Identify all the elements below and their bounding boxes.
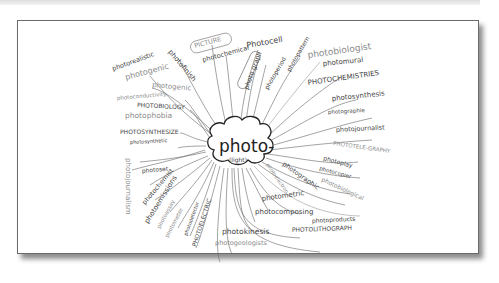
branch-label: photoperiod <box>263 55 288 91</box>
branch-label: photomural <box>322 56 363 68</box>
branch-label: PHOTOBIOLOGY <box>137 101 185 111</box>
branch-label: photosynthetic <box>130 137 168 146</box>
branch-label: PHOTOSYNTHESIZE <box>120 128 179 135</box>
mind-map-canvas: photo- (light) photorealistic photogenic… <box>0 0 499 283</box>
branch-label: Photocell <box>246 35 284 50</box>
branch-label: photocomposing <box>255 208 313 216</box>
hub-word: photo- <box>219 136 274 156</box>
branch-label: photophobia <box>125 111 172 120</box>
branch-label: photofinish <box>166 48 197 83</box>
branch-label: PHOTOCHEMISTRIES <box>307 69 380 87</box>
branch-label: photojournalist <box>336 123 386 134</box>
branch-label: photochemical <box>201 44 250 64</box>
branch-label: PHOTOLITHOGRAPH <box>292 224 352 233</box>
branch-label: photogeologists <box>215 239 267 247</box>
branch-photograph: photo graph <box>236 50 263 91</box>
branch-label: photosynthesis <box>331 89 385 103</box>
branch-label: photographie <box>328 107 366 116</box>
branch-label: photokinesis <box>222 227 269 236</box>
hub-meaning: (light) <box>229 156 247 164</box>
branch-label: PHOTOTELE-GRAPHY <box>333 140 391 154</box>
branch-label: photobiological <box>320 176 365 203</box>
svg-text:photo graph: photo graph <box>242 51 263 91</box>
branch-label: photojournalism <box>124 158 132 215</box>
central-hub: photo- (light) <box>208 117 275 165</box>
